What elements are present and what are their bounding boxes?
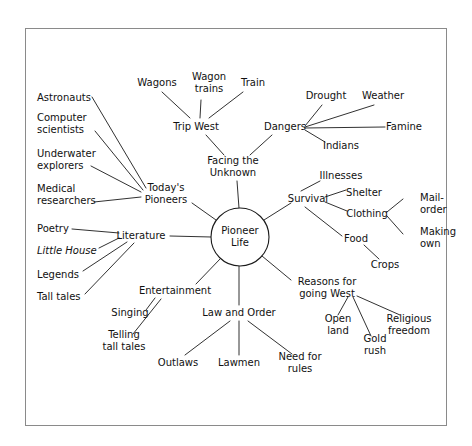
node-label-open_land-line1: Open: [325, 313, 352, 324]
node-underwater_explorers[interactable]: Underwaterexplorers: [37, 148, 97, 171]
edge-pioneer_life-to-survival: [264, 203, 291, 220]
node-mail_order[interactable]: Mail-order: [420, 192, 448, 215]
node-label-singing: Singing: [111, 307, 148, 318]
node-dangers[interactable]: Dangers: [264, 121, 306, 132]
node-tall_tales[interactable]: Tall tales: [36, 291, 81, 302]
node-literature[interactable]: Literature: [117, 230, 166, 241]
node-telling_tall_tales[interactable]: Tellingtall tales: [103, 329, 146, 352]
node-open_land[interactable]: Openland: [325, 313, 352, 336]
node-label-mail_order-line2: order: [420, 204, 448, 215]
node-label-underwater_explorers-line1: Underwater: [37, 148, 97, 159]
node-label-weather: Weather: [362, 90, 405, 101]
node-poetry[interactable]: Poetry: [37, 223, 69, 234]
node-gold_rush[interactable]: Goldrush: [364, 333, 387, 356]
node-label-legends: Legends: [37, 269, 79, 280]
node-lawmen[interactable]: Lawmen: [218, 357, 260, 368]
node-making_own[interactable]: Makingown: [420, 226, 456, 249]
node-label-computer_scientists-line2: scientists: [37, 124, 84, 135]
node-label-indians: Indians: [323, 140, 359, 151]
node-outlaws[interactable]: Outlaws: [158, 357, 198, 368]
node-label-telling_tall_tales-line2: tall tales: [103, 341, 146, 352]
edge-clothing-to-making_own: [387, 216, 403, 234]
node-label-tall_tales: Tall tales: [36, 291, 81, 302]
edge-todays_pioneers-to-astronauts: [92, 97, 146, 188]
node-train[interactable]: Train: [240, 77, 265, 88]
node-singing[interactable]: Singing: [111, 307, 148, 318]
node-little_house[interactable]: Little House: [37, 245, 97, 256]
edge-survival-to-illnesses: [301, 181, 320, 191]
edge-dangers-to-weather: [305, 105, 374, 127]
node-famine[interactable]: Famine: [386, 121, 422, 132]
node-todays_pioneers[interactable]: Today'sPioneers: [145, 182, 188, 205]
node-label-crops: Crops: [371, 259, 400, 270]
node-indians[interactable]: Indians: [323, 140, 359, 151]
edge-reasons_west-to-religious_freedom: [357, 296, 400, 315]
node-drought[interactable]: Drought: [306, 90, 347, 101]
node-computer_scientists[interactable]: Computerscientists: [37, 112, 88, 135]
node-label-gold_rush-line1: Gold: [364, 333, 387, 344]
edge-law_and_order-to-outlaws: [185, 321, 230, 355]
node-label-drought: Drought: [306, 90, 347, 101]
node-label-pioneer_life-line2: Life: [231, 237, 249, 248]
node-astronauts[interactable]: Astronauts: [37, 92, 91, 103]
node-label-todays_pioneers-line1: Today's: [147, 182, 185, 193]
node-label-wagons: Wagons: [137, 77, 176, 88]
edge-pioneer_life-to-entertainment: [196, 258, 221, 284]
edge-todays_pioneers-to-computer_scientists: [95, 131, 143, 190]
node-wagon_trains[interactable]: Wagontrains: [192, 71, 226, 94]
node-label-outlaws: Outlaws: [158, 357, 198, 368]
node-pioneer_life[interactable]: PioneerLife: [211, 208, 269, 266]
node-label-gold_rush-line2: rush: [364, 345, 386, 356]
node-facing_unknown[interactable]: Facing theUnknown: [207, 155, 259, 178]
node-label-todays_pioneers-line2: Pioneers: [145, 194, 188, 205]
edge-pioneer_life-to-reasons_west: [262, 256, 291, 280]
edge-pioneer_life-to-todays_pioneers: [192, 203, 216, 220]
node-entertainment[interactable]: Entertainment: [139, 285, 211, 296]
node-label-wagon_trains-line2: trains: [195, 83, 224, 94]
node-need_for_rules[interactable]: Need forrules: [278, 351, 322, 374]
node-wagons[interactable]: Wagons: [137, 77, 176, 88]
node-label-pioneer_life-line1: Pioneer: [221, 225, 259, 236]
node-label-reasons_west-line1: Reasons for: [298, 276, 357, 287]
node-medical_researchers[interactable]: Medicalresearchers: [37, 183, 96, 206]
node-label-little_house: Little House: [37, 245, 97, 256]
node-religious_freedom[interactable]: Religiousfreedom: [387, 313, 432, 336]
node-label-underwater_explorers-line2: explorers: [37, 160, 84, 171]
node-label-literature: Literature: [117, 230, 166, 241]
node-label-reasons_west-line2: going West: [299, 288, 355, 299]
node-trip_west[interactable]: Trip West: [172, 121, 219, 132]
node-label-entertainment: Entertainment: [139, 285, 211, 296]
node-label-telling_tall_tales-line1: Telling: [107, 329, 140, 340]
node-label-lawmen: Lawmen: [218, 357, 260, 368]
node-label-facing_unknown-line1: Facing the: [207, 155, 259, 166]
node-law_and_order[interactable]: Law and Order: [202, 307, 276, 318]
node-clothing[interactable]: Clothing: [346, 208, 388, 219]
node-label-illnesses: Illnesses: [320, 170, 363, 181]
node-label-survival: Survival: [288, 193, 328, 204]
node-label-wagon_trains-line1: Wagon: [192, 71, 226, 82]
node-shelter[interactable]: Shelter: [346, 187, 383, 198]
edge-dangers-to-famine: [305, 127, 385, 128]
edge-pioneer_life-to-facing_unknown: [237, 181, 239, 208]
node-label-law_and_order: Law and Order: [202, 307, 276, 318]
pioneer-life-mind-map: PioneerLifeFacing theUnknownTrip WestWag…: [0, 0, 472, 446]
edge-facing_unknown-to-trip_west: [206, 135, 224, 155]
node-food[interactable]: Food: [344, 233, 368, 244]
node-survival[interactable]: Survival: [288, 193, 328, 204]
node-reasons_west[interactable]: Reasons forgoing West: [298, 276, 357, 299]
node-label-train: Train: [240, 77, 265, 88]
node-label-trip_west: Trip West: [172, 121, 219, 132]
node-legends[interactable]: Legends: [37, 269, 79, 280]
edge-reasons_west-to-gold_rush: [353, 297, 371, 336]
node-label-making_own-line1: Making: [420, 226, 456, 237]
node-label-need_for_rules-line1: Need for: [278, 351, 322, 362]
edge-food-to-crops: [364, 245, 379, 259]
node-label-religious_freedom-line2: freedom: [388, 325, 430, 336]
node-illnesses[interactable]: Illnesses: [320, 170, 363, 181]
edge-todays_pioneers-to-medical_researchers: [94, 197, 141, 202]
edge-law_and_order-to-need_for_rules: [248, 321, 292, 354]
node-label-religious_freedom-line1: Religious: [387, 313, 432, 324]
node-crops[interactable]: Crops: [371, 259, 400, 270]
node-weather[interactable]: Weather: [362, 90, 405, 101]
node-label-medical_researchers-line2: researchers: [37, 195, 96, 206]
